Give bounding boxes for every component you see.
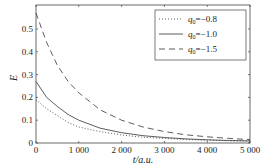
x-tick-label: 5 000 <box>240 145 261 155</box>
series-dotted <box>36 100 250 142</box>
y-tick-label: 0.1 <box>22 115 33 125</box>
series-solid <box>36 81 250 140</box>
legend-label: q0=−0.8 <box>188 14 217 25</box>
x-tick-label: 3 000 <box>154 145 175 155</box>
legend-label: q0=−1.5 <box>188 44 217 55</box>
x-tick-label: 4 000 <box>197 145 218 155</box>
line-chart: 01 0002 0003 0004 0005 00000.10.20.30.40… <box>0 0 266 166</box>
x-tick-label: 1 000 <box>69 145 90 155</box>
y-tick-label: 0 <box>29 138 34 148</box>
y-tick-label: 0.4 <box>22 47 34 57</box>
y-tick-label: 0.3 <box>22 70 34 80</box>
legend-label: q0=−1.0 <box>188 29 217 40</box>
y-tick-label: 0.2 <box>22 92 33 102</box>
x-axis-label: t/a.u. <box>133 154 154 165</box>
x-tick-label: 0 <box>34 145 39 155</box>
x-tick-label: 2 000 <box>111 145 132 155</box>
y-axis-label: E <box>8 75 19 82</box>
y-tick-label: 0.5 <box>22 24 34 34</box>
legend: q0=−0.8q0=−1.0q0=−1.5 <box>155 10 246 60</box>
